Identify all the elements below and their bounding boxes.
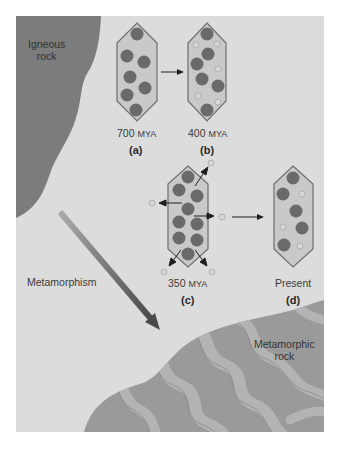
metamorphism-label: Metamorphism [27, 277, 96, 288]
panel-letter-a: (a) [129, 145, 142, 156]
radiometric-dating-diagram [0, 0, 343, 451]
age-label-c: 350 MYA [168, 278, 207, 289]
crystal-b [188, 23, 226, 121]
crystal-d [274, 166, 313, 267]
panel-letter-b: (b) [200, 145, 214, 156]
age-label-b: 400 MYA [188, 128, 227, 139]
igneous-rock-label: Igneous rock [28, 38, 65, 62]
panel-letter-d: (d) [286, 295, 300, 306]
panel-letter-c: (c) [181, 295, 194, 306]
age-label-d: Present [275, 278, 311, 289]
metamorphic-rock-label: Metamorphic rock [254, 338, 315, 362]
age-label-a: 700 MYA [117, 128, 156, 139]
crystal-a [117, 23, 157, 121]
